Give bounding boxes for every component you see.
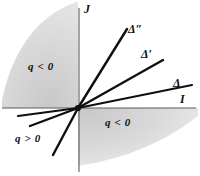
diagram-svg xyxy=(0,0,200,176)
figure-canvas: J I Δ″ Δ′ Δ q < 0 q > 0 q < 0 xyxy=(0,0,200,176)
line-delta-double-prime xyxy=(78,29,127,108)
shaded-region-lower-right xyxy=(78,108,198,166)
line-label-delta-double-prime: Δ″ xyxy=(128,23,142,35)
origin-point xyxy=(75,105,81,111)
line-label-delta-prime: Δ′ xyxy=(141,48,152,60)
line-label-delta: Δ xyxy=(173,77,181,89)
shaded-region-upper-left xyxy=(2,2,78,108)
line-delta-prime xyxy=(78,60,163,108)
region-label-upper-left: q < 0 xyxy=(28,61,54,72)
region-label-lower-left: q > 0 xyxy=(15,133,41,144)
axis-label-I: I xyxy=(180,93,185,105)
region-label-lower-right: q < 0 xyxy=(105,117,131,128)
axis-label-J: J xyxy=(84,3,90,15)
